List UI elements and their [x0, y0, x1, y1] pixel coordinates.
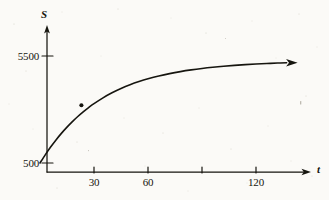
- y-tick-label-500: 500: [5, 157, 39, 169]
- y-axis-label: S: [41, 8, 47, 20]
- curve-arrowhead: [286, 59, 298, 67]
- growth-curve: [40, 59, 298, 163]
- figure-container: S t 5500 500 30 60 120: [0, 0, 329, 200]
- x-tick-label-60: 60: [133, 176, 163, 188]
- x-axis: [47, 169, 311, 175]
- curve-point-marker: [79, 103, 83, 107]
- graph-plot-area: [0, 0, 329, 200]
- x-tick-label-30: 30: [79, 176, 109, 188]
- x-axis-label: t: [317, 163, 320, 175]
- x-tick-label-120: 120: [241, 176, 271, 188]
- y-tick-label-5500: 5500: [5, 50, 39, 62]
